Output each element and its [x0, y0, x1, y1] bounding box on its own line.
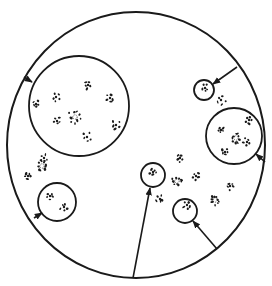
cell-cluster: [59, 203, 69, 212]
cell-cluster: [217, 95, 227, 106]
cell-cluster: [155, 194, 164, 203]
arrow-to-bottom-center-right: [193, 221, 217, 249]
arrow-to-bottom-left: [34, 213, 42, 218]
cell-cluster: [46, 193, 54, 200]
cell-cluster: [32, 99, 40, 108]
cell-cluster: [242, 137, 251, 147]
cell-cluster: [82, 132, 92, 142]
circle-large-top-left: [29, 56, 129, 156]
arrow-to-large-top-left: [24, 77, 32, 82]
cell-cluster: [217, 126, 225, 133]
cell-cluster: [52, 92, 61, 102]
cell-cluster: [182, 201, 191, 210]
petri-dish-diagram: [0, 0, 272, 286]
cell-cluster: [231, 132, 241, 145]
highlight-circles: [29, 56, 262, 223]
cell-cluster: [226, 183, 235, 192]
cell-cluster: [171, 176, 183, 186]
cell-cluster: [221, 148, 229, 156]
cell-cluster: [53, 117, 61, 125]
cell-cluster: [244, 116, 253, 126]
circle-small-top-right: [194, 80, 214, 100]
cell-cluster: [105, 93, 114, 103]
arrow-to-bottom-center-left: [133, 188, 150, 278]
arrow-to-small-top-right: [213, 67, 237, 84]
cell-cluster: [201, 83, 208, 92]
cell-cluster: [84, 81, 92, 91]
cell-cluster: [210, 195, 220, 207]
cell-cluster: [112, 120, 121, 131]
cell-cluster: [24, 172, 32, 181]
outer-boundary-circle: [7, 12, 265, 278]
cell-clusters: [24, 81, 253, 212]
cell-cluster: [191, 172, 200, 182]
cell-cluster: [148, 167, 157, 176]
cell-cluster: [176, 154, 184, 163]
cell-cluster: [68, 110, 82, 125]
diagram-canvas: [0, 0, 272, 286]
circle-bottom-left: [38, 183, 76, 221]
